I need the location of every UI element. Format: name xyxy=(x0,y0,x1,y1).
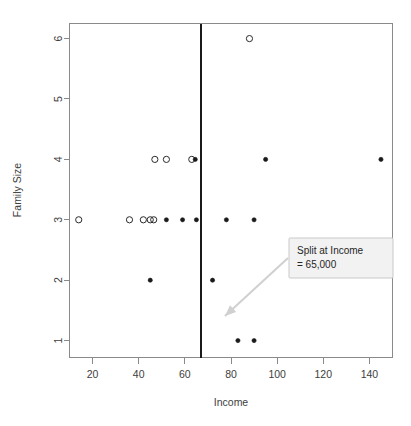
data-points-open xyxy=(76,35,253,222)
split-callout-annotation: Split at Income = 65,000 xyxy=(225,238,393,316)
data-point-filled xyxy=(264,157,268,161)
data-point-open xyxy=(140,217,146,223)
y-tick-label: 2 xyxy=(53,277,65,283)
x-tick-label: 120 xyxy=(315,368,333,380)
x-axis-title: Income xyxy=(214,396,249,408)
callout-arrow-icon xyxy=(225,258,288,316)
data-point-filled xyxy=(148,278,152,282)
x-axis-ticks: 20406080100120140 xyxy=(87,358,379,380)
callout-text-line-2: = 65,000 xyxy=(297,259,337,270)
callout-text-line-1: Split at Income xyxy=(297,245,364,256)
y-tick-label: 3 xyxy=(53,217,65,223)
data-point-filled xyxy=(224,218,228,222)
data-point-filled xyxy=(210,278,214,282)
plot-canvas: 20406080100120140 123456 Split at Income… xyxy=(0,0,411,426)
data-point-filled xyxy=(252,218,256,222)
x-tick-label: 80 xyxy=(225,368,237,380)
x-tick-label: 40 xyxy=(133,368,145,380)
data-point-filled xyxy=(236,338,240,342)
scatter-plot-figure: 20406080100120140 123456 Split at Income… xyxy=(0,0,411,426)
data-point-open xyxy=(126,217,132,223)
y-tick-label: 4 xyxy=(53,156,65,162)
y-tick-label: 1 xyxy=(53,338,65,344)
y-tick-label: 5 xyxy=(53,96,65,102)
data-point-filled xyxy=(379,157,383,161)
callout-box xyxy=(289,238,393,278)
data-point-filled xyxy=(252,338,256,342)
data-point-filled xyxy=(194,218,198,222)
data-point-filled xyxy=(193,157,197,161)
y-axis-ticks: 123456 xyxy=(53,36,70,344)
y-tick-label: 6 xyxy=(53,36,65,42)
data-point-filled xyxy=(180,218,184,222)
x-tick-label: 60 xyxy=(179,368,191,380)
x-tick-label: 20 xyxy=(87,368,99,380)
x-tick-label: 140 xyxy=(361,368,379,380)
data-point-open xyxy=(163,156,169,162)
y-axis-title: Family Size xyxy=(11,163,23,217)
data-point-open xyxy=(246,35,252,41)
data-point-filled xyxy=(164,218,168,222)
data-point-open xyxy=(76,217,82,223)
data-point-open xyxy=(152,156,158,162)
x-tick-label: 100 xyxy=(268,368,286,380)
